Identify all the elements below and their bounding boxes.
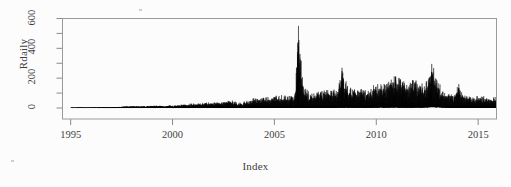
x-tick-label: 2015 [456, 129, 500, 140]
x-tick-label: 2005 [252, 129, 296, 140]
x-axis-title: Index [0, 160, 511, 172]
scan-artifact-top [139, 9, 142, 11]
data-series-rdaily [71, 26, 497, 108]
x-tick-label: 2010 [354, 129, 398, 140]
plot-canvas [0, 0, 511, 187]
y-tick-label: 600 [26, 0, 37, 34]
axis-group [57, 19, 479, 126]
chart-figure: Rdaily Index 19952000200520102015 020040… [0, 0, 511, 187]
x-tick-label: 2000 [151, 129, 195, 140]
x-tick-label: 1995 [49, 129, 93, 140]
y-tick-label: 0 [26, 90, 37, 124]
y-tick-label: 200 [26, 60, 37, 94]
rdaily-line [71, 26, 497, 108]
y-tick-label: 400 [26, 30, 37, 64]
